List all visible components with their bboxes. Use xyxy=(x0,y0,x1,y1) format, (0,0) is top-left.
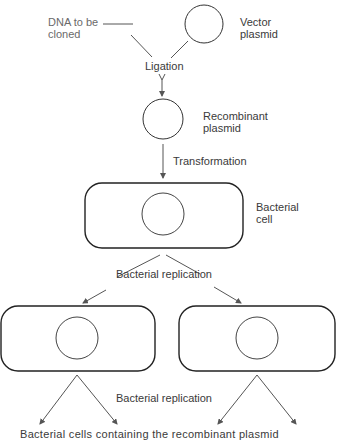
ligation-label: Ligation xyxy=(145,60,184,72)
replication2-left-b xyxy=(77,375,117,424)
bacterial-cell-label: Bacterial cell xyxy=(256,201,299,225)
replication2-left-a xyxy=(40,375,77,424)
recombinant-label-line2: plasmid xyxy=(203,122,268,134)
ligation-v-right xyxy=(162,74,165,80)
recombinant-plasmid-circle xyxy=(143,99,183,139)
ligation-v-left xyxy=(159,74,162,80)
recombinant-label-line1: Recombinant xyxy=(203,110,268,122)
dna-label-line1: DNA to be xyxy=(48,16,98,28)
daughter-cell-right xyxy=(179,306,335,371)
daughter-cell-left-plasmid xyxy=(56,317,98,359)
bacterial-cell-label-line2: cell xyxy=(256,213,299,225)
replication2-right-a xyxy=(218,375,257,424)
bacterial-replication-label-1: Bacterial replication xyxy=(116,268,212,280)
vector-label-line1: Vector xyxy=(240,16,278,28)
bacterial-cell-plasmid xyxy=(142,193,184,235)
replication-arrow-left xyxy=(83,290,106,303)
daughter-cell-left xyxy=(1,306,155,371)
bacterial-replication-label-2: Bacterial replication xyxy=(116,392,212,404)
vector-plasmid-label: Vector plasmid xyxy=(240,16,278,40)
daughter-cell-right-plasmid xyxy=(236,317,278,359)
dna-to-ligation-line xyxy=(131,35,152,57)
replication2-right-b xyxy=(257,375,296,424)
vector-label-line2: plasmid xyxy=(240,28,278,40)
recombinant-plasmid-label: Recombinant plasmid xyxy=(203,110,268,134)
dna-label-line2: cloned xyxy=(48,28,98,40)
transformation-label: Transformation xyxy=(173,155,247,167)
vector-plasmid-circle xyxy=(185,5,223,43)
bacterial-cell-label-line1: Bacterial xyxy=(256,201,299,213)
vector-to-ligation-line xyxy=(171,41,188,58)
replication-arrow-right xyxy=(214,287,241,303)
dna-to-be-cloned-label: DNA to be cloned xyxy=(48,16,98,40)
footer-clipped-text: Bacterial cells containing the recombina… xyxy=(20,428,279,440)
